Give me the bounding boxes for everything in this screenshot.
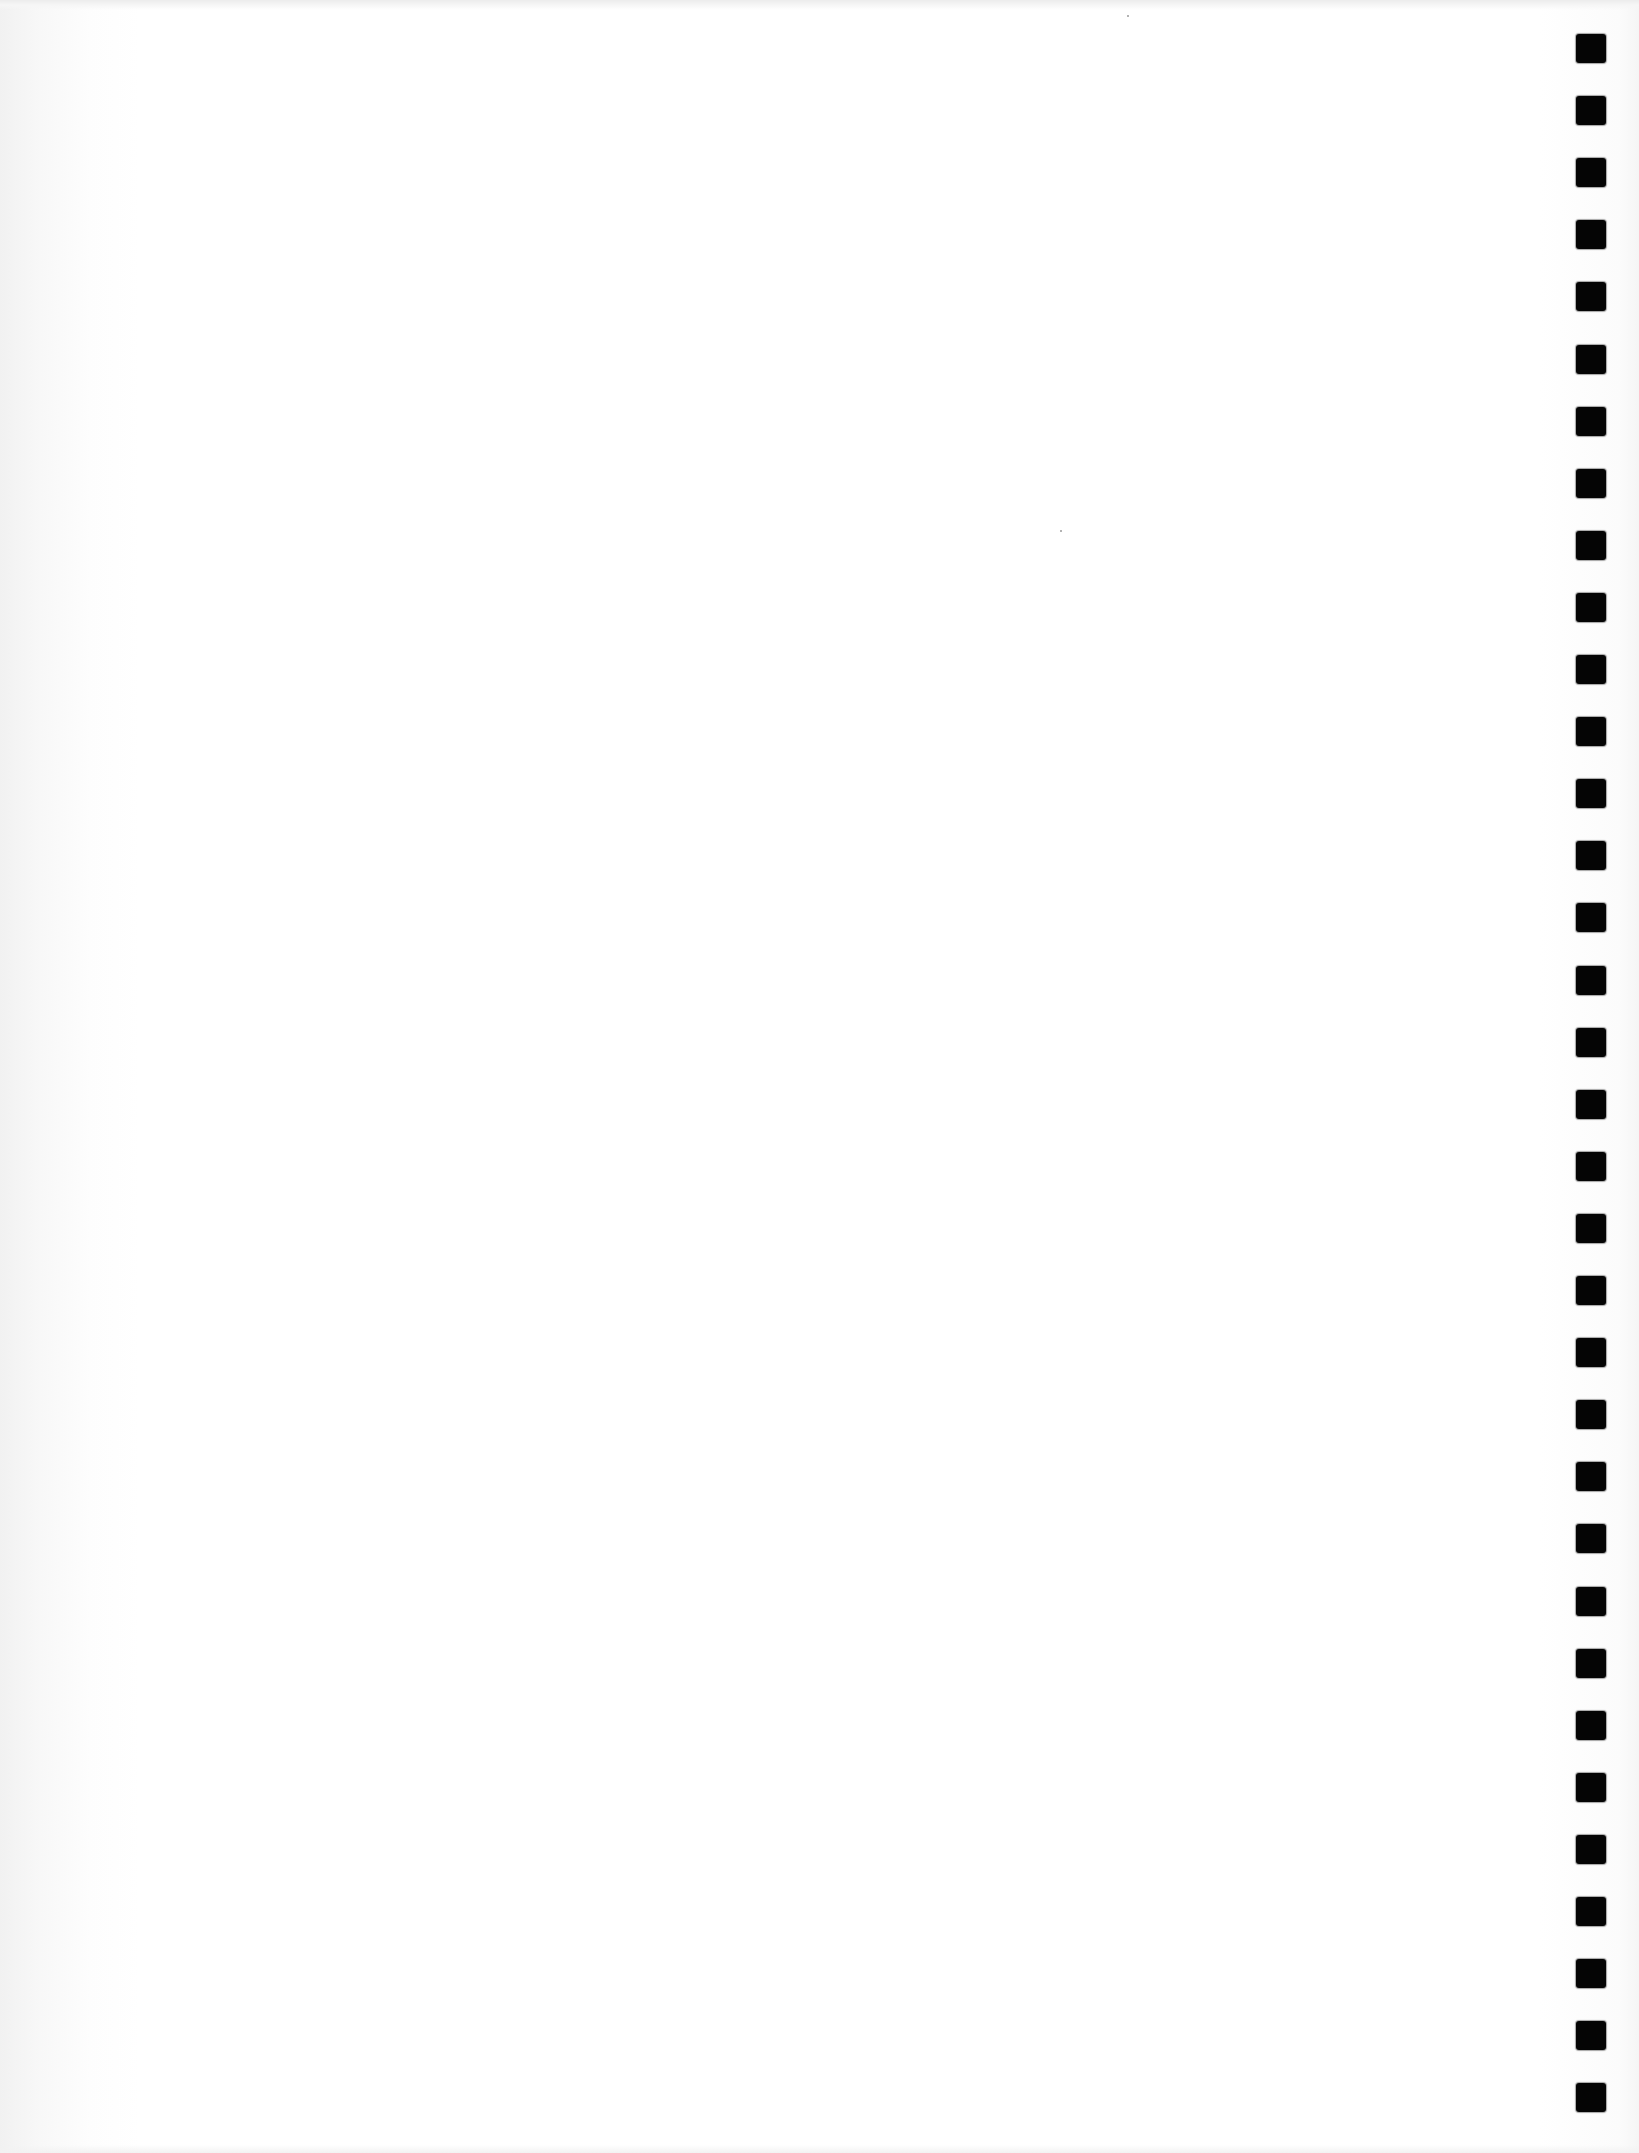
- binding-hole: [1576, 2021, 1606, 2050]
- binding-hole: [1576, 966, 1606, 995]
- binding-hole: [1576, 593, 1606, 622]
- binding-hole: [1576, 1028, 1606, 1057]
- binding-hole: [1576, 158, 1606, 187]
- binding-hole: [1576, 1773, 1606, 1802]
- binding-hole: [1576, 282, 1606, 311]
- page-bottom-edge-shadow: [0, 2145, 1639, 2153]
- scan-speck: [1060, 530, 1062, 532]
- binding-hole: [1576, 531, 1606, 560]
- scan-speck: [1127, 15, 1129, 17]
- binding-hole: [1576, 903, 1606, 932]
- binding-hole: [1576, 1835, 1606, 1864]
- binding-hole: [1576, 1524, 1606, 1553]
- binding-hole: [1576, 1587, 1606, 1616]
- binding-hole: [1576, 1338, 1606, 1367]
- binding-hole: [1576, 1897, 1606, 1926]
- binding-hole: [1576, 1649, 1606, 1678]
- binding-hole: [1576, 469, 1606, 498]
- binding-hole: [1576, 1214, 1606, 1243]
- binding-hole: [1576, 1400, 1606, 1429]
- binding-hole: [1576, 1152, 1606, 1181]
- page-top-edge-shadow: [0, 0, 1639, 10]
- binding-holes-column: [1576, 34, 1608, 2134]
- binding-hole: [1576, 717, 1606, 746]
- binding-hole: [1576, 345, 1606, 374]
- binding-hole: [1576, 1276, 1606, 1305]
- binding-hole: [1576, 655, 1606, 684]
- binding-hole: [1576, 841, 1606, 870]
- notebook-page: [0, 0, 1639, 2153]
- binding-hole: [1576, 1462, 1606, 1491]
- binding-hole: [1576, 779, 1606, 808]
- binding-hole: [1576, 2083, 1606, 2112]
- binding-hole: [1576, 1090, 1606, 1119]
- binding-hole: [1576, 407, 1606, 436]
- binding-hole: [1576, 1959, 1606, 1988]
- binding-hole: [1576, 96, 1606, 125]
- binding-hole: [1576, 34, 1606, 63]
- binding-hole: [1576, 220, 1606, 249]
- binding-hole: [1576, 1711, 1606, 1740]
